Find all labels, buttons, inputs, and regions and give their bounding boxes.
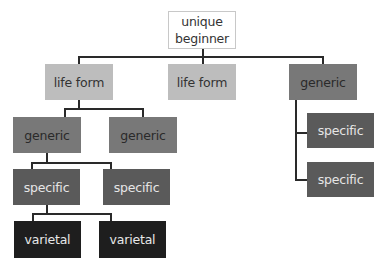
node-varietal-b: varietal [99, 221, 166, 258]
node-generic-left-b: generic [109, 117, 177, 153]
connector-specific-b-up [110, 162, 112, 169]
connector-level4-bar [32, 213, 111, 215]
connector-varietal-b-up [110, 213, 112, 221]
taxonomy-diagram: unique beginner life form life form gene… [0, 0, 386, 268]
node-specific-left-b: specific [103, 169, 170, 205]
node-life-form-left: life form [45, 64, 113, 100]
connector-level1-bar [78, 56, 323, 58]
connector-specific-right-a [295, 132, 307, 134]
node-varietal-a: varietal [14, 221, 81, 258]
node-generic-right: generic [289, 64, 357, 100]
connector-specific-right-b [295, 179, 307, 181]
connector-generic-right-up [322, 56, 324, 64]
connector-specific-a-up [31, 162, 33, 169]
connector-level3-bar [31, 162, 111, 164]
connector-generic-b-up [142, 108, 144, 117]
connector-lifeform-middle-up [202, 56, 204, 64]
node-unique-beginner-line1: unique [181, 13, 223, 30]
node-unique-beginner-line2: beginner [175, 30, 229, 47]
connector-varietal-a-up [32, 213, 34, 221]
connector-generic-a-up [64, 108, 66, 117]
node-unique-beginner: unique beginner [168, 11, 236, 49]
connector-lifeform-left-up [78, 56, 80, 64]
node-specific-right-a: specific [307, 113, 374, 148]
connector-level2-bar [64, 108, 143, 110]
node-specific-left-a: specific [13, 169, 80, 205]
node-life-form-middle: life form [168, 64, 236, 100]
connector-generic-right-down [295, 100, 297, 180]
node-specific-right-b: specific [307, 162, 374, 197]
node-generic-left-a: generic [13, 117, 81, 153]
